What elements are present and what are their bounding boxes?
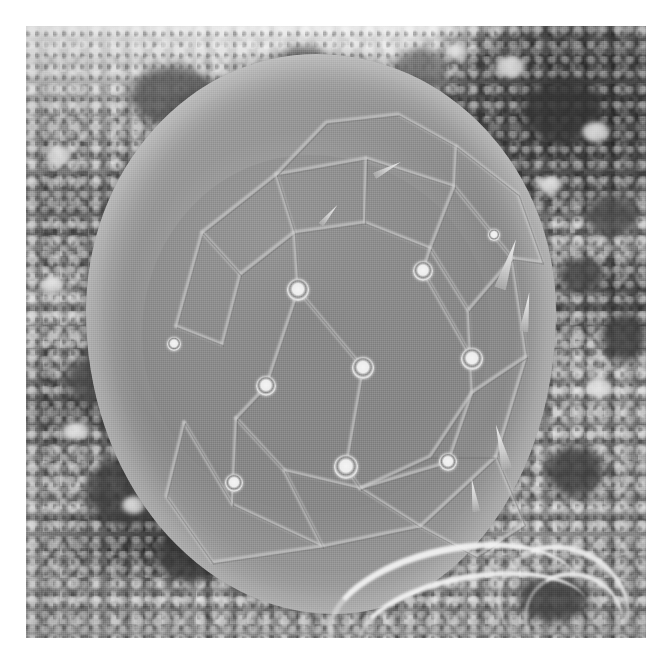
plate-seam bbox=[176, 326, 222, 344]
specimen-pore bbox=[439, 453, 457, 471]
plate-seam-shadow bbox=[168, 424, 324, 564]
specimen-pore bbox=[287, 279, 309, 301]
plate-seam-shadow bbox=[362, 394, 474, 490]
plate-seam bbox=[166, 422, 322, 562]
specimen-pore bbox=[488, 229, 500, 241]
specimen-pore bbox=[334, 455, 358, 479]
specimen-pore bbox=[461, 348, 483, 370]
plate-seam-shadow bbox=[296, 234, 365, 370]
specimen-pore bbox=[167, 337, 181, 351]
micrograph-page bbox=[0, 0, 672, 669]
plate-seam bbox=[236, 290, 298, 418]
plate-seam bbox=[276, 174, 294, 232]
plate-seam-shadow bbox=[204, 234, 242, 276]
specimen-pore bbox=[256, 376, 276, 396]
sem-image-plate bbox=[26, 26, 646, 638]
specimen-pore bbox=[225, 474, 243, 492]
plate-seam-shadow bbox=[362, 490, 422, 528]
plate-seam bbox=[420, 456, 524, 556]
specimen-pore bbox=[352, 357, 374, 379]
plate-seam-shadow bbox=[178, 328, 224, 346]
plate-seam bbox=[430, 186, 454, 248]
specimen-pore bbox=[413, 261, 433, 281]
plate-seam bbox=[294, 232, 363, 368]
plate-seam bbox=[360, 488, 420, 526]
plate-seam-shadow bbox=[278, 176, 296, 234]
plate-seam-shadow bbox=[432, 188, 456, 250]
